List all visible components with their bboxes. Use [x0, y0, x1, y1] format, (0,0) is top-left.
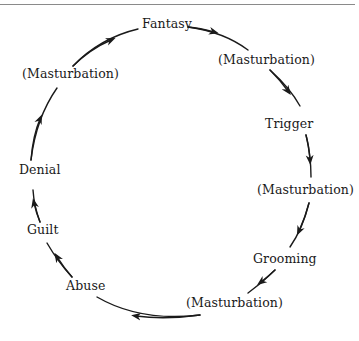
- node-trigger: Trigger: [265, 117, 313, 131]
- arrow-denial-to-masturbation: [31, 88, 57, 160]
- node-fantasy: Fantasy: [142, 17, 192, 31]
- node-guilt: Guilt: [27, 223, 59, 237]
- node-grooming: Grooming: [253, 252, 317, 266]
- node-masturbation-2: (Masturbation): [257, 183, 354, 197]
- arrow-masturbation-to-fantasy: [73, 29, 138, 66]
- arrow-masturbation-to-grooming: [290, 203, 309, 247]
- arrow-fantasy-to-masturbation: [188, 27, 248, 50]
- node-denial: Denial: [19, 163, 61, 177]
- node-masturbation-3: (Masturbation): [186, 296, 283, 310]
- node-abuse: Abuse: [66, 279, 105, 293]
- node-masturbation-4: (Masturbation): [22, 67, 119, 81]
- arrow-masturbation-to-abuse: [97, 297, 200, 317]
- node-masturbation-1: (Masturbation): [218, 53, 315, 67]
